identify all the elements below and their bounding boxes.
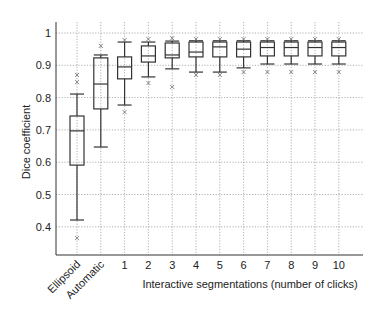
y-tick-label: 0.9 [36,59,51,71]
x-tick-label: 4 [193,259,199,271]
x-axis-label: Interactive segmentations (number of cli… [142,278,357,290]
y-tick-label: 0.5 [36,189,51,201]
iqr-box [189,42,203,57]
x-tick-label: 1 [122,259,128,271]
x-tick-label: 3 [169,259,175,271]
outlier-marker [75,80,79,84]
y-tick-labels: 0.40.50.60.70.80.91 [36,27,51,233]
outlier-marker [170,85,174,89]
box-series [70,36,346,240]
box-plot-chart: 0.40.50.60.70.80.91 EllipsoidAutomatic12… [0,0,378,311]
x-tick-label: 9 [312,259,318,271]
iqr-box [213,42,227,57]
y-tick-label: 0.7 [36,124,51,136]
y-axis-label: Dice coefficient [20,105,32,179]
axes [56,22,363,255]
x-tick-label: 10 [333,259,345,271]
x-tick-label: 8 [288,259,294,271]
box-5 [213,37,227,77]
y-tick-label: 0.8 [36,92,51,104]
x-tick-label: 5 [217,259,223,271]
x-tick-label: 7 [264,259,270,271]
y-tick-label: 0.6 [36,156,51,168]
x-tick-label: 6 [241,259,247,271]
box-4 [189,37,203,77]
chart-canvas: 0.40.50.60.70.80.91 EllipsoidAutomatic12… [0,0,378,311]
outlier-marker [123,110,127,114]
y-tick-label: 0.4 [36,221,51,233]
x-tick-label: 2 [145,259,151,271]
box-2 [141,37,155,85]
y-tick-label: 1 [45,27,51,39]
outlier-marker [75,236,79,240]
outlier-marker [146,37,150,41]
grid-lines [56,22,363,255]
